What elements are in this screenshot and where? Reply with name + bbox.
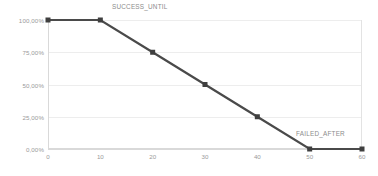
x-tick-label: 30	[202, 153, 209, 160]
x-tick-label: 40	[254, 153, 261, 160]
y-tick-label: 100,00%	[19, 17, 44, 24]
x-tick-label: 10	[97, 153, 104, 160]
x-tick-label: 20	[149, 153, 156, 160]
annotation-failed-after: FAILED_AFTER	[296, 130, 345, 137]
data-point-marker	[150, 50, 155, 55]
y-tick-label: 50,00%	[22, 81, 44, 88]
x-tick-label: 60	[359, 153, 366, 160]
line-chart: 0,00%25,00%50,00%75,00%100,00% 010203040…	[0, 0, 378, 176]
x-tick-label: 0	[46, 153, 49, 160]
data-point-marker	[307, 147, 312, 152]
y-tick-label: 0,00%	[26, 146, 44, 153]
y-tick-label: 75,00%	[22, 49, 44, 56]
y-tick-label: 25,00%	[22, 113, 44, 120]
data-point-marker	[203, 82, 208, 87]
annotation-success-until: SUCCESS_UNTIL	[112, 3, 168, 10]
x-tick-label: 50	[306, 153, 313, 160]
data-point-marker	[46, 18, 51, 23]
data-point-marker	[360, 147, 365, 152]
data-point-marker	[255, 114, 260, 119]
data-point-marker	[98, 18, 103, 23]
